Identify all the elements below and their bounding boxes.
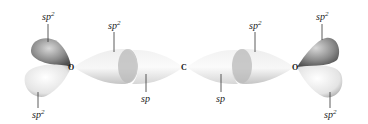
superscript: 2: [51, 10, 55, 18]
orbital-diagram: O C O sp2 sp2 sp2 sp sp sp2 sp2 sp2: [0, 0, 368, 124]
label-right-bottom: sp2: [324, 108, 337, 120]
superscript: 2: [41, 108, 45, 116]
label-left-bond: sp2: [108, 19, 121, 31]
superscript: 2: [325, 10, 329, 18]
right-sp-lobe: [187, 50, 238, 84]
label-right-bottom-text: sp: [324, 109, 333, 120]
atom-o-right: O: [292, 63, 298, 72]
label-right-sp-text: sp: [216, 93, 225, 104]
label-left-sp-text: sp: [141, 93, 150, 104]
left-top-lobe: [31, 38, 71, 67]
label-right-bond: sp2: [249, 19, 262, 31]
right-bond-cap: [232, 49, 252, 83]
label-right-top: sp2: [316, 10, 329, 22]
label-left-top-text: sp: [42, 11, 51, 22]
superscript: 2: [117, 19, 121, 27]
label-right-sp: sp: [216, 93, 225, 104]
label-right-top-text: sp: [316, 11, 325, 22]
label-left-bond-text: sp: [108, 20, 117, 31]
left-oxygen-lobes: [25, 38, 71, 97]
right-oxygen-lobes: [297, 38, 342, 98]
left-sp-lobe: [132, 50, 183, 84]
left-bottom-lobe: [25, 64, 71, 96]
atom-o-left: O: [68, 63, 74, 72]
label-right-bond-text: sp: [249, 20, 258, 31]
superscript: 2: [333, 108, 337, 116]
label-left-sp: sp: [141, 93, 150, 104]
atom-c-center: C: [181, 63, 187, 72]
label-left-bottom-text: sp: [32, 109, 41, 120]
left-bond-cap: [118, 49, 138, 83]
label-left-top: sp2: [42, 10, 55, 22]
superscript: 2: [258, 19, 262, 27]
right-top-lobe: [297, 38, 339, 67]
label-left-bottom: sp2: [32, 108, 45, 120]
right-bottom-lobe: [297, 66, 342, 98]
